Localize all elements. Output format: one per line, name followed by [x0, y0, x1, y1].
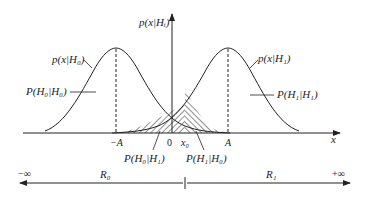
region-r0-label: R₀	[99, 168, 111, 180]
mean-label-h0: −A	[110, 137, 124, 148]
h0-curve-label: p(x|H₀)	[51, 53, 85, 66]
x-axis-label: x	[330, 133, 336, 145]
false-alarm-region	[185, 88, 230, 133]
plus-infinity-label: +∞	[332, 168, 345, 179]
miss-leader	[153, 131, 160, 150]
false-alarm-leader	[196, 131, 204, 150]
threshold-label: x₀	[180, 137, 189, 148]
origin-label: 0	[167, 137, 172, 148]
h1-curve-label: p(x|H₁)	[257, 52, 291, 65]
mean-label-h1: A	[224, 137, 232, 148]
h0-curve-leader	[84, 60, 92, 68]
h1-curve-leader	[250, 60, 258, 68]
h1-region-label: P(H₁|H₁)	[276, 88, 318, 101]
miss-region	[120, 104, 185, 133]
minus-infinity-label: −∞	[18, 168, 31, 179]
false-alarm-label: P(H₁|H₀)	[185, 152, 227, 165]
detection-diagram: p(x|Hᵢ) x p(x|H₀) p(x|H₁) P(H₀|H₀) P(H₁|…	[0, 0, 365, 206]
h0-region-label: P(H₀|H₀)	[25, 85, 67, 98]
miss-label: P(H₀|H₁)	[123, 152, 165, 165]
y-axis-label: p(x|Hᵢ)	[138, 16, 170, 29]
region-r1-label: R₁	[265, 168, 277, 180]
